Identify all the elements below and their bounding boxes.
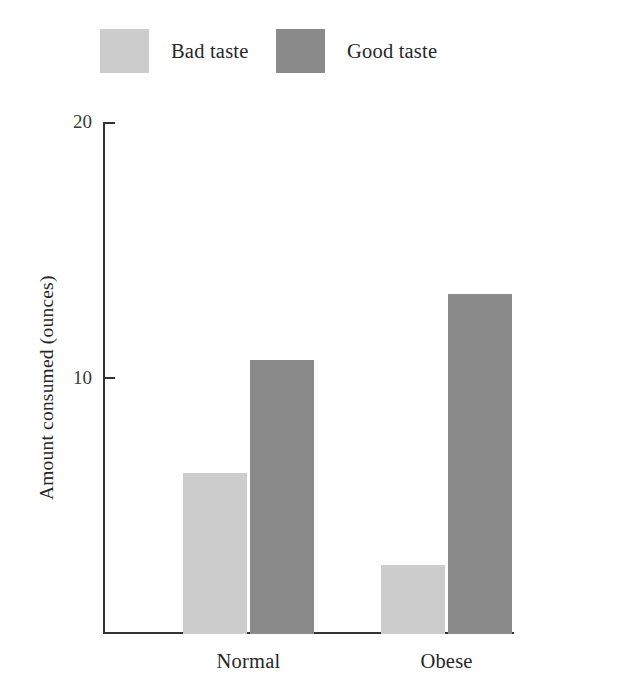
plot-area: 20 10 Amount consumed (ounces) Normal Ob… — [0, 0, 619, 695]
bar-chart-figure: Bad taste Good taste 20 10 Amount consum… — [0, 0, 619, 695]
x-axis-label-obese: Obese — [321, 651, 572, 672]
y-tick-mark-10 — [103, 377, 115, 379]
y-tick-mark-20 — [103, 122, 115, 124]
bar-obese-bad-taste — [381, 565, 445, 634]
y-tick-label-20: 20 — [48, 112, 92, 131]
y-axis-title: Amount consumed (ounces) — [37, 223, 57, 553]
bar-obese-good-taste — [448, 294, 512, 634]
bar-normal-good-taste — [250, 360, 314, 634]
bar-normal-bad-taste — [183, 473, 247, 634]
